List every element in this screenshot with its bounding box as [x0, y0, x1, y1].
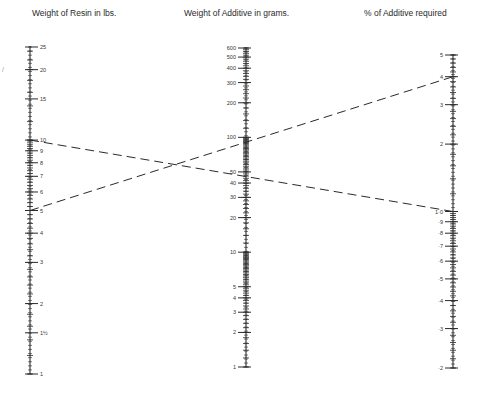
- tick-label: ·2: [438, 365, 443, 371]
- tick-label: 15: [40, 96, 46, 102]
- tick-label: 1½: [40, 330, 48, 336]
- resin-weight-scale: 25201510987654321½1: [25, 44, 48, 377]
- dashed-isopleth: [30, 77, 453, 211]
- example-isopleths: [30, 77, 453, 212]
- tick-label: 6: [40, 189, 43, 195]
- tick-label: 2: [40, 301, 43, 307]
- tick-label: 20: [40, 67, 46, 73]
- tick-label: 3: [40, 259, 43, 265]
- tick-label: ·9: [438, 219, 443, 225]
- tick-label: 100: [227, 134, 236, 140]
- dashed-isopleth: [30, 140, 453, 211]
- tick-label: 8: [40, 160, 43, 166]
- tick-label: ·3: [438, 326, 443, 332]
- additive-percent-scale: 54321·0·9·8·7·6·5·4·3·2: [435, 52, 458, 371]
- tick-label: 7: [40, 173, 43, 179]
- tick-label: 1: [40, 371, 43, 377]
- tick-label: 1: [233, 364, 236, 370]
- tick-label: 500: [227, 54, 236, 60]
- tick-label: 3: [440, 102, 443, 108]
- tick-label: 9: [40, 148, 43, 154]
- tick-label: ·7: [438, 243, 443, 249]
- tick-label: 200: [227, 100, 236, 106]
- tick-label: 600: [227, 45, 236, 51]
- tick-label: 4: [440, 74, 443, 80]
- tick-label: ·4: [438, 298, 443, 304]
- tick-label: 5: [440, 52, 443, 58]
- tick-label: 400: [227, 65, 236, 71]
- tick-label: 3: [233, 309, 236, 315]
- tick-label: 4: [40, 230, 43, 236]
- tick-label: ·6: [438, 258, 443, 264]
- tick-label: 30: [230, 194, 236, 200]
- tick-label: ·5: [438, 276, 443, 282]
- tick-label: 10: [230, 249, 236, 255]
- tick-label: 5: [40, 208, 43, 214]
- tick-label: 300: [227, 80, 236, 86]
- additive-weight-scale: 600500400300200100504030201054321: [227, 45, 251, 370]
- tick-label: 2: [440, 141, 443, 147]
- nomograph: 25201510987654321½1 60050040030020010050…: [0, 0, 481, 394]
- tick-label: 20: [230, 215, 236, 221]
- tick-label: ·8: [438, 230, 443, 236]
- tick-label: 2: [233, 329, 236, 335]
- tick-label: 25: [40, 44, 46, 50]
- tick-label: 5: [233, 284, 236, 290]
- tick-label: 40: [230, 180, 236, 186]
- tick-label: 4: [233, 295, 236, 301]
